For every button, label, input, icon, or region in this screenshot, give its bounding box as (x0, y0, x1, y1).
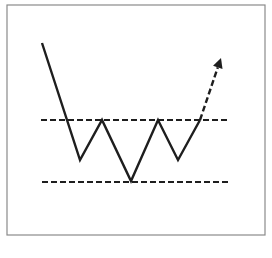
arrow-up-icon (213, 58, 222, 69)
inverse-head-and-shoulders-diagram (0, 0, 272, 258)
price-path (42, 43, 200, 181)
breakout-projection-dashed (200, 67, 218, 120)
